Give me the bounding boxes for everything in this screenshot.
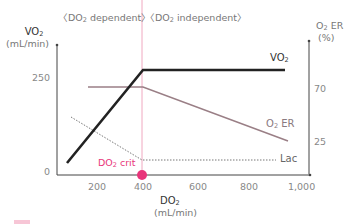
series-o2er-line [88, 87, 288, 141]
y-axis-unit: (mL/min) [6, 38, 49, 49]
y2-axis-unit: (%) [318, 32, 334, 43]
region-independent-label: 〈DO2 independent〉 [145, 10, 247, 24]
tick-y2-70: 70 [314, 83, 326, 94]
tick-y2-25: 25 [314, 136, 326, 147]
tick-x-1000: 1,000 [288, 181, 315, 192]
tick-x-400: 400 [134, 181, 152, 192]
region-dependent-label: 〈DO2 dependent〉 [58, 10, 151, 24]
tick-x-800: 800 [240, 181, 258, 192]
crit-label: DO2 crit [98, 157, 135, 169]
pink-footer-mark [14, 220, 30, 224]
series-vo2-label: VO2 [270, 52, 289, 64]
tick-x-600: 600 [189, 181, 207, 192]
series-lac-label: Lac [280, 153, 297, 164]
tick-y-0: 0 [44, 166, 50, 177]
tick-x-200: 200 [88, 181, 106, 192]
series-lac-line [71, 117, 276, 160]
tick-y-250: 250 [32, 72, 50, 83]
x-axis-arrow [309, 174, 312, 177]
y2-axis-title: O2 ER [316, 20, 343, 32]
y2-axis-arrow [308, 40, 311, 43]
series-vo2-line [67, 70, 285, 163]
series-o2er-label: O2 ER [266, 118, 294, 130]
crit-point-marker [137, 170, 147, 180]
y-axis-arrow [56, 44, 59, 47]
x-axis-unit: (mL/min) [154, 207, 197, 218]
